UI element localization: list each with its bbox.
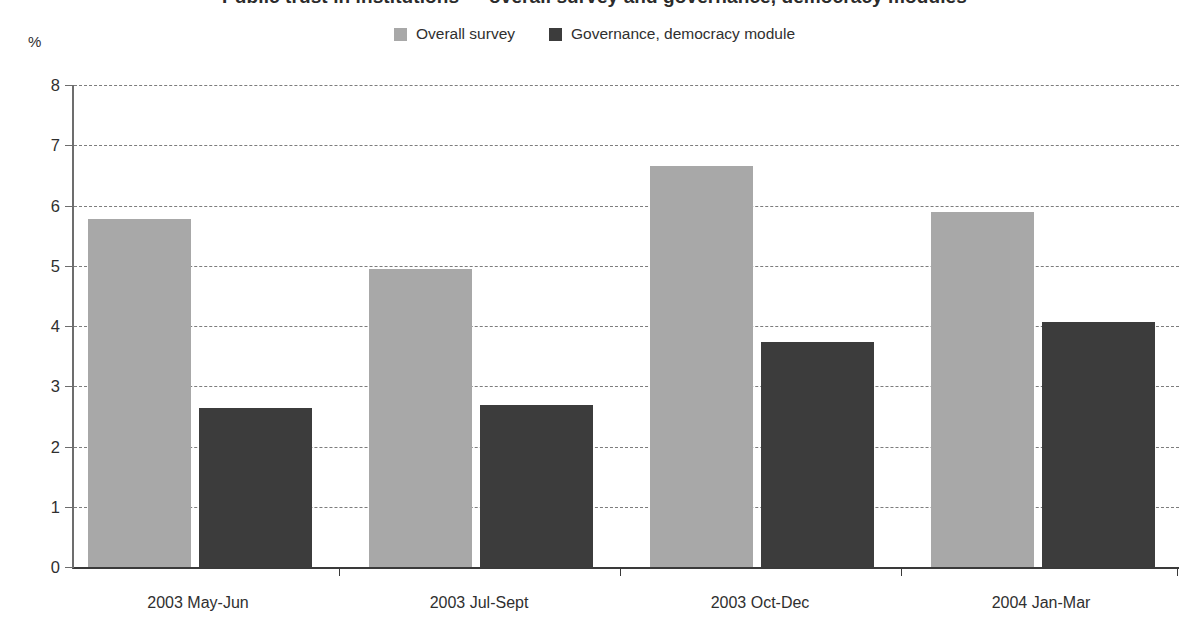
- legend-item-overall-survey: Overall survey: [394, 25, 515, 43]
- x-tick-mark-2: [620, 567, 621, 576]
- plot-area: [72, 85, 1179, 569]
- legend-label-overall-survey: Overall survey: [416, 25, 515, 43]
- y-tick-label-2: 2: [20, 437, 60, 456]
- y-tick-label-4: 4: [20, 317, 60, 336]
- chart-page: Public trust in institutions — overall s…: [0, 0, 1189, 639]
- x-tick-mark-4: [1177, 567, 1178, 576]
- gridline-7: [74, 145, 1179, 146]
- y-tick-label-7: 7: [20, 136, 60, 155]
- y-tick-mark-5: [65, 266, 74, 267]
- y-tick-mark-6: [65, 206, 74, 207]
- y-tick-label-3: 3: [20, 377, 60, 396]
- chart-title: Public trust in institutions — overall s…: [0, 0, 1189, 8]
- y-tick-label-6: 6: [20, 196, 60, 215]
- bar-module-2004-jan-mar[interactable]: [1042, 322, 1155, 567]
- chart-legend: Overall survey Governance, democracy mod…: [0, 25, 1189, 43]
- y-tick-mark-3: [65, 386, 74, 387]
- x-tick-mark-3: [901, 567, 902, 576]
- y-tick-mark-8: [65, 85, 74, 86]
- legend-swatch-overall-icon: [394, 28, 407, 41]
- y-tick-mark-2: [65, 447, 74, 448]
- x-tick-mark-1: [339, 567, 340, 576]
- y-tick-label-1: 1: [20, 497, 60, 516]
- y-tick-label-0: 0: [20, 558, 60, 577]
- bar-module-2003-may-jun[interactable]: [199, 408, 312, 567]
- x-axis-label-2003-jul-sept: 2003 Jul-Sept: [430, 594, 529, 612]
- legend-label-governance-module: Governance, democracy module: [571, 25, 795, 43]
- x-axis-label-2003-oct-dec: 2003 Oct-Dec: [711, 594, 810, 612]
- bar-overall-2003-may-jun[interactable]: [88, 219, 191, 567]
- y-axis-unit-label: %: [28, 33, 41, 50]
- y-tick-mark-0: [65, 567, 74, 568]
- y-tick-mark-4: [65, 326, 74, 327]
- gridline-8: [74, 85, 1179, 86]
- legend-swatch-module-icon: [549, 28, 562, 41]
- bar-overall-2003-oct-dec[interactable]: [650, 166, 753, 567]
- x-axis-label-2003-may-jun: 2003 May-Jun: [147, 594, 248, 612]
- bar-module-2003-oct-dec[interactable]: [761, 342, 874, 567]
- legend-item-governance-module: Governance, democracy module: [549, 25, 795, 43]
- bar-overall-2004-jan-mar[interactable]: [931, 212, 1034, 567]
- y-tick-label-8: 8: [20, 76, 60, 95]
- x-axis-label-2004-jan-mar: 2004 Jan-Mar: [992, 594, 1091, 612]
- bar-overall-2003-jul-sept[interactable]: [369, 269, 472, 567]
- gridline-6: [74, 206, 1179, 207]
- bar-module-2003-jul-sept[interactable]: [480, 405, 593, 567]
- y-tick-label-5: 5: [20, 256, 60, 275]
- y-tick-mark-1: [65, 507, 74, 508]
- y-tick-mark-7: [65, 145, 74, 146]
